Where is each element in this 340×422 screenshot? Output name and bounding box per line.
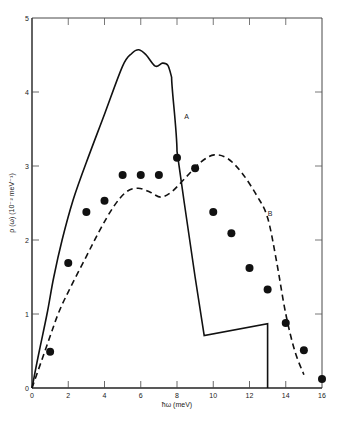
curve-a [32,50,268,388]
chart: 0246810121416 012345 A B ħω (meV) ρ (ω) … [0,0,340,422]
data-point [64,259,72,267]
data-point [209,208,217,216]
svg-text:10: 10 [209,392,217,399]
svg-text:4: 4 [103,392,107,399]
data-point [282,319,290,327]
curve-b [32,155,304,388]
data-point [264,286,272,294]
data-point [227,229,235,237]
svg-text:14: 14 [282,392,290,399]
svg-text:0: 0 [30,392,34,399]
svg-text:2: 2 [25,237,29,244]
svg-text:4: 4 [25,89,29,96]
svg-text:0: 0 [25,385,29,392]
data-point [137,171,145,179]
curve-a-label: A [184,113,189,120]
data-point [46,348,54,356]
svg-text:3: 3 [25,163,29,170]
plot-frame [32,18,322,388]
svg-text:6: 6 [139,392,143,399]
svg-text:2: 2 [66,392,70,399]
data-point [173,154,181,162]
data-point [318,375,326,383]
svg-text:5: 5 [25,15,29,22]
data-point [101,197,109,205]
data-points [46,154,326,383]
data-point [155,171,163,179]
y-axis-label: ρ (ω) (10⁻² meV⁻¹) [8,173,16,232]
curve-b-label: B [268,210,273,217]
svg-text:16: 16 [318,392,326,399]
data-point [191,164,199,172]
svg-text:8: 8 [175,392,179,399]
data-point [246,264,254,272]
svg-text:12: 12 [246,392,254,399]
x-axis-label: ħω (meV) [162,401,192,409]
data-point [119,171,127,179]
data-point [300,346,308,354]
svg-text:1: 1 [25,311,29,318]
y-axis-ticks: 012345 [25,15,322,392]
data-point [82,208,90,216]
x-axis-ticks: 0246810121416 [30,18,326,399]
